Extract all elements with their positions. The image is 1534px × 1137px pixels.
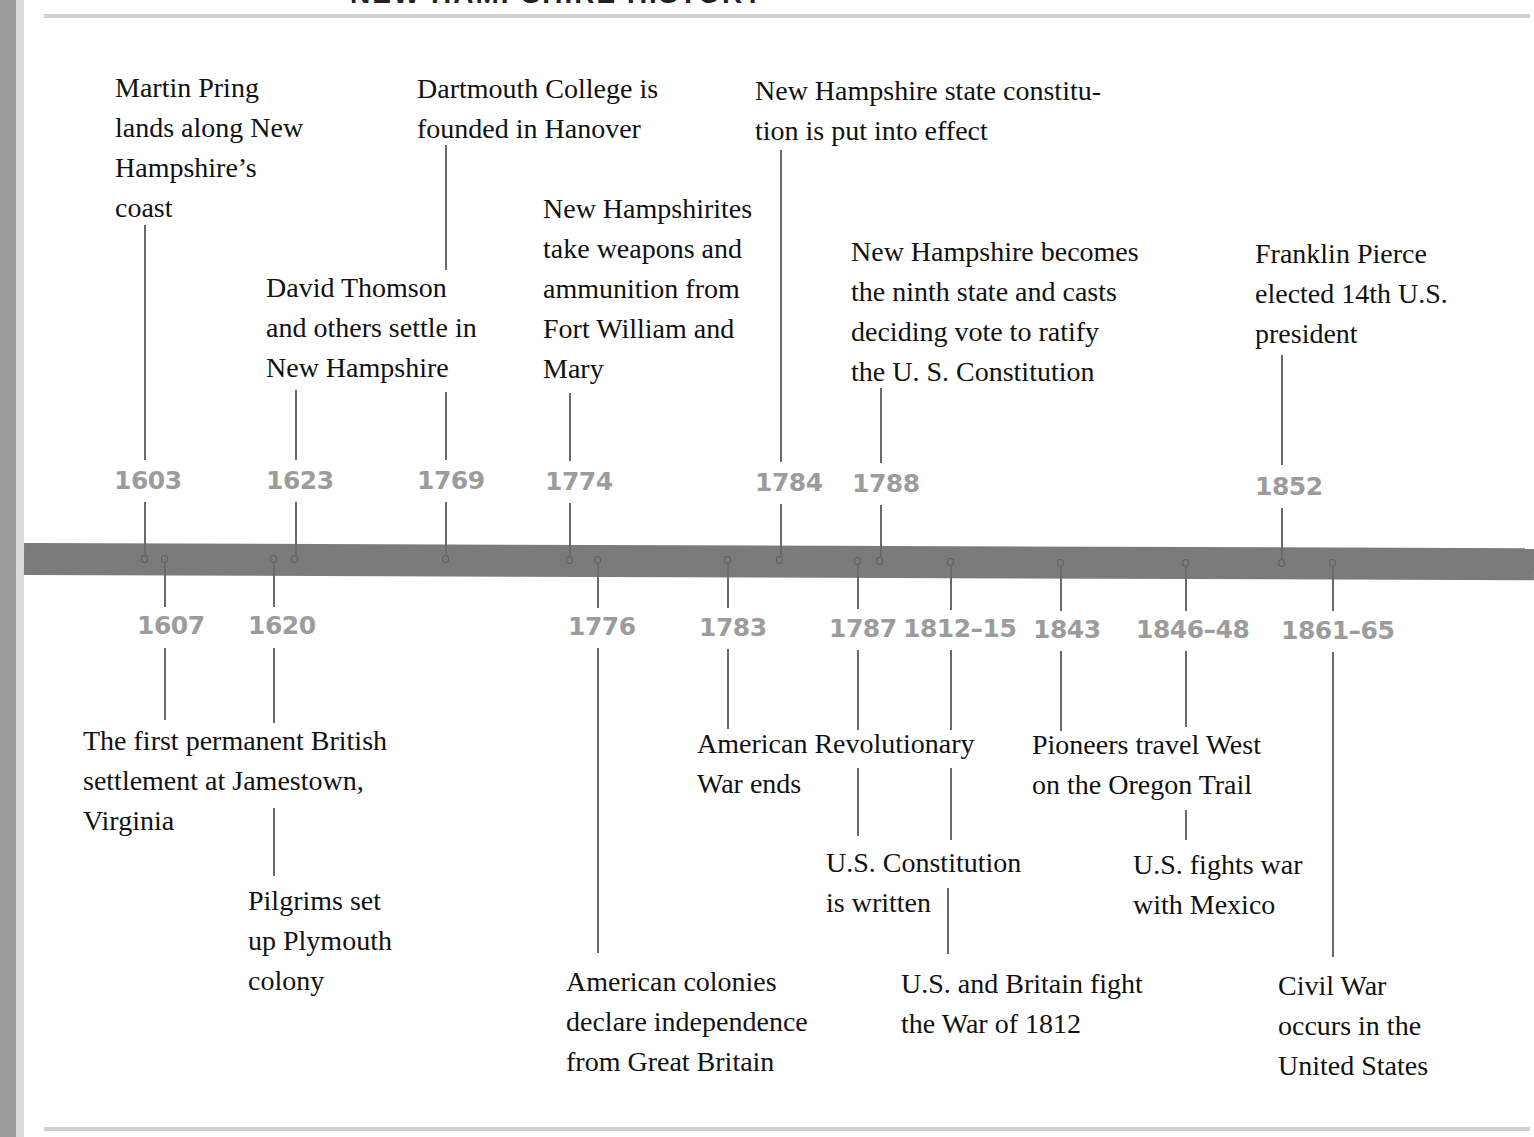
connector-1607-lower xyxy=(164,648,166,720)
connector-1603-lower xyxy=(144,502,146,557)
year-label-1623: 1623 xyxy=(266,466,334,495)
connector-1623-upper xyxy=(295,390,297,460)
event-text-1787: U.S. Constitution is written xyxy=(826,843,1021,923)
event-text-1783: American Revolutionary War ends xyxy=(697,724,975,804)
year-label-1620: 1620 xyxy=(248,611,316,640)
connector-1783-upper xyxy=(727,563,729,608)
event-text-1769: Dartmouth College is founded in Hanover xyxy=(417,69,658,149)
connector-1620-upper xyxy=(273,562,275,607)
connector-1843-upper xyxy=(1060,566,1062,611)
event-text-1788: New Hampshire becomes the ninth state an… xyxy=(851,232,1139,392)
connector-1787-upper xyxy=(857,564,859,609)
year-label-1861-65: 1861–65 xyxy=(1281,616,1394,645)
connector-1846-upper xyxy=(1185,566,1187,611)
year-label-1812-15: 1812–15 xyxy=(903,614,1016,643)
connector-1812-upper xyxy=(950,565,952,610)
connector-1812-bottom xyxy=(947,888,949,954)
connector-1623-lower xyxy=(295,502,297,557)
page-title: NEW HAMPSHIRE HISTORY xyxy=(350,0,764,10)
marker-1788 xyxy=(876,557,883,565)
year-label-1776: 1776 xyxy=(568,612,636,641)
connector-1812-lower xyxy=(950,650,952,730)
connector-1774-lower xyxy=(569,503,571,558)
year-label-1788: 1788 xyxy=(852,469,920,498)
year-label-1787: 1787 xyxy=(829,614,897,643)
connector-1620-bottom xyxy=(273,808,275,876)
marker-1852 xyxy=(1278,559,1285,567)
event-text-1607: The first permanent British settlement a… xyxy=(83,721,387,841)
year-label-1784: 1784 xyxy=(755,468,823,497)
year-label-1774: 1774 xyxy=(545,467,613,496)
connector-1620-lower xyxy=(273,648,275,723)
connector-1774-upper xyxy=(569,393,571,461)
event-text-1784: New Hampshire state constitu- tion is pu… xyxy=(755,71,1101,151)
connector-1776-upper xyxy=(597,563,599,608)
connector-1852-lower xyxy=(1281,508,1283,560)
page-edge-shadow xyxy=(16,0,24,1137)
event-text-1861-65: Civil War occurs in the United States xyxy=(1278,966,1428,1086)
connector-1846-lower xyxy=(1185,651,1187,727)
year-label-1603: 1603 xyxy=(114,466,182,495)
event-text-1852: Franklin Pierce elected 14th U.S. presid… xyxy=(1255,234,1448,354)
event-text-1812-15: U.S. and Britain fight the War of 1812 xyxy=(901,964,1143,1044)
connector-1776-lower xyxy=(597,648,599,953)
connector-1783-lower xyxy=(727,649,729,729)
connector-1861-lower xyxy=(1332,652,1334,957)
year-label-1843: 1843 xyxy=(1033,615,1101,644)
connector-1769-lower xyxy=(445,502,447,557)
connector-1788-lower xyxy=(880,505,882,558)
connector-1846-bottom xyxy=(1185,810,1187,840)
year-label-1852: 1852 xyxy=(1255,472,1323,501)
event-text-1846-48: U.S. fights war with Mexico xyxy=(1133,845,1303,925)
connector-1784-lower xyxy=(780,504,782,558)
connector-1812-mid xyxy=(950,768,952,840)
year-label-1783: 1783 xyxy=(699,613,767,642)
connector-1603-upper xyxy=(144,225,146,460)
event-text-1623: David Thomson and others settle in New H… xyxy=(266,268,477,388)
event-text-1774: New Hampshirites take weapons and ammuni… xyxy=(543,189,752,389)
connector-1787-lower xyxy=(857,650,859,730)
event-text-1620: Pilgrims set up Plymouth colony xyxy=(248,881,392,1001)
connector-1861-upper xyxy=(1332,566,1334,611)
connector-1787-bottom xyxy=(857,768,859,836)
event-text-1776: American colonies declare independence f… xyxy=(566,962,808,1082)
connector-1784-upper xyxy=(780,150,782,462)
connector-1843-lower xyxy=(1060,651,1062,731)
connector-1769-top xyxy=(445,145,447,270)
connector-1769-upper xyxy=(445,392,447,460)
event-text-1603: Martin Pring lands along New Hampshire’s… xyxy=(115,68,303,228)
bottom-rule xyxy=(44,1127,1530,1131)
top-rule xyxy=(44,14,1530,18)
connector-1788-upper xyxy=(880,388,882,463)
connector-1852-upper xyxy=(1281,355,1283,465)
connector-1607-upper xyxy=(164,562,166,607)
year-label-1769: 1769 xyxy=(417,466,485,495)
year-label-1607: 1607 xyxy=(137,611,205,640)
year-label-1846-48: 1846–48 xyxy=(1136,615,1249,644)
page-edge-strip xyxy=(0,0,16,1137)
event-text-1843: Pioneers travel West on the Oregon Trail xyxy=(1032,725,1261,805)
